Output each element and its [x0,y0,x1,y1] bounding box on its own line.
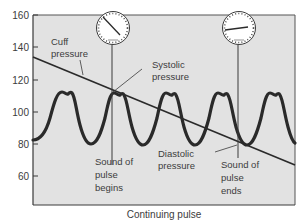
gauge-systolic [97,12,130,45]
plot-area [33,15,295,205]
blood-pressure-diagram: 160 140 120 100 80 60 Cuff pressure Syst… [0,0,300,222]
diastolic-label-line2: pressure [158,160,195,171]
y-tick-160: 160 [12,10,29,21]
cuff-label-line2: pressure [51,48,88,59]
cuff-label-line1: Cuff [51,36,69,47]
ends-label-line1: Sound of [221,159,259,170]
y-tick-labels: 160 140 120 100 80 60 [12,10,29,182]
gauge-diastolic [223,12,256,45]
ends-label-line2: pulse [221,172,244,183]
y-tick-120: 120 [12,75,29,86]
begins-label-line2: pulse [95,169,118,180]
begins-label-line3: begins [95,182,123,193]
y-tick-100: 100 [12,107,29,118]
y-tick-60: 60 [18,171,30,182]
y-tick-140: 140 [12,42,29,53]
ends-label-line3: ends [221,185,242,196]
y-tick-80: 80 [18,139,30,150]
systolic-label-line2: pressure [152,71,189,82]
systolic-label-line1: Systolic [152,59,185,70]
diastolic-label-line1: Diastolic [158,148,194,159]
x-axis-label: Continuing pulse [127,209,202,220]
begins-label-line1: Sound of [95,156,133,167]
